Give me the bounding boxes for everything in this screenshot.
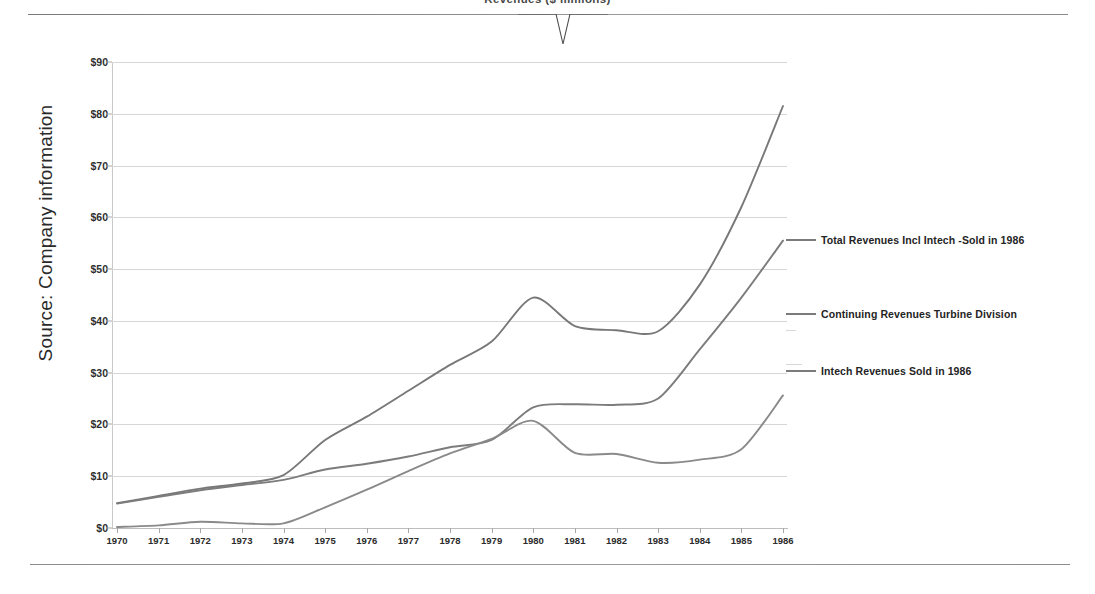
y-axis-labels: $90 $80 $70 $60 $50 $40 $30 $20 $10 $0 [62,62,108,528]
y-tick-label-50: $50 [62,263,108,275]
legend-line-swatch-icon [786,239,816,241]
x-tick-label-1979: 1979 [469,535,515,546]
x-tick-label-1983: 1983 [635,535,681,546]
x-tick-mark-1974 [284,528,285,533]
x-tick-label-1977: 1977 [385,535,431,546]
y-tick-label-0: $0 [62,522,108,534]
x-tick-mark-1972 [200,528,201,533]
x-tick-mark-1981 [575,528,576,533]
series-line-total-revenues [117,106,783,503]
legend-label-continuing-revenues: Continuing Revenues Turbine Division [821,308,1017,320]
x-tick-mark-1975 [325,528,326,533]
x-tick-mark-1983 [658,528,659,533]
x-tick-mark-1979 [492,528,493,533]
legend-line-swatch-icon [786,370,816,372]
x-tick-mark-1984 [700,528,701,533]
y-tick-label-80: $80 [62,108,108,120]
x-tick-mark-1976 [367,528,368,533]
x-tick-mark-1980 [533,528,534,533]
x-tick-mark-1971 [159,528,160,533]
x-tick-label-1976: 1976 [344,535,390,546]
x-tick-mark-1973 [242,528,243,533]
x-tick-mark-1978 [450,528,451,533]
x-tick-label-1980: 1980 [510,535,556,546]
scan-artifact [786,364,802,365]
x-tick-label-1971: 1971 [136,535,182,546]
legend-item-continuing-revenues[interactable]: Continuing Revenues Turbine Division [786,308,1017,320]
x-tick-label-1985: 1985 [718,535,764,546]
x-tick-label-1973: 1973 [219,535,265,546]
x-tick-label-1975: 1975 [302,535,348,546]
x-tick-label-1982: 1982 [594,535,640,546]
x-tick-label-1974: 1974 [261,535,307,546]
data-series-layer [112,62,788,529]
legend-label-total-revenues: Total Revenues Incl Intech -Sold in 1986 [821,234,1024,246]
x-tick-label-1970: 1970 [94,535,140,546]
x-tick-mark-1986 [783,528,784,533]
x-tick-mark-1970 [117,528,118,533]
x-tick-label-1981: 1981 [552,535,598,546]
y-tick-label-10: $10 [62,470,108,482]
x-tick-mark-1985 [741,528,742,533]
x-tick-mark-1982 [617,528,618,533]
source-caption: Source: Company information [35,83,57,383]
legend-line-swatch-icon [786,313,816,315]
x-tick-label-1978: 1978 [427,535,473,546]
legend-label-intech-revenues: Intech Revenues Sold in 1986 [821,365,971,377]
callout-notch-icon [518,14,608,46]
legend-item-intech-revenues[interactable]: Intech Revenues Sold in 1986 [786,365,971,377]
y-tick-label-20: $20 [62,418,108,430]
x-tick-mark-1977 [408,528,409,533]
legend-item-total-revenues[interactable]: Total Revenues Incl Intech -Sold in 1986 [786,234,1024,246]
y-tick-label-90: $90 [62,56,108,68]
scan-artifact [786,330,796,331]
chart-legend: Total Revenues Incl Intech -Sold in 1986… [786,0,1095,594]
y-tick-label-30: $30 [62,367,108,379]
slide-canvas: Revenues ($ millions) Source: Company in… [0,0,1095,594]
x-tick-label-1984: 1984 [677,535,723,546]
series-line-intech-revenues [117,395,783,527]
y-tick-label-70: $70 [62,160,108,172]
y-tick-label-40: $40 [62,315,108,327]
y-tick-label-60: $60 [62,211,108,223]
x-tick-label-1972: 1972 [177,535,223,546]
series-line-continuing-revenues [117,241,783,504]
